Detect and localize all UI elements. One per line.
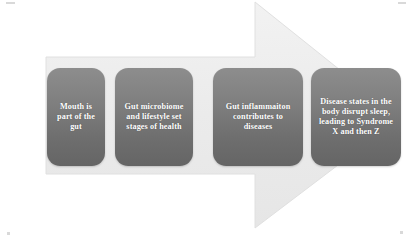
scan-artifact-bottom-right [400,231,403,234]
scan-artifact-top-right [398,2,406,4]
process-step-3-label: Gut inflammaiton contributes to diseases [219,102,297,133]
process-step-2[interactable]: Gut microbiome and lifestyle set stages … [115,68,193,166]
process-step-2-label: Gut microbiome and lifestyle set stages … [121,102,187,133]
diagram-canvas: Mouth is part of the gut Gut microbiome … [0,0,416,243]
process-step-3[interactable]: Gut inflammaiton contributes to diseases [213,68,303,166]
process-step-4[interactable]: Disease states in the body disrupt sleep… [311,68,401,166]
scan-artifact-top-left [6,2,15,4]
scan-artifact-bottom-left [7,232,10,235]
process-step-1[interactable]: Mouth is part of the gut [47,68,105,166]
process-steps: Mouth is part of the gut Gut microbiome … [0,0,416,243]
process-step-4-label: Disease states in the body disrupt sleep… [317,97,395,138]
process-step-1-label: Mouth is part of the gut [53,102,99,133]
